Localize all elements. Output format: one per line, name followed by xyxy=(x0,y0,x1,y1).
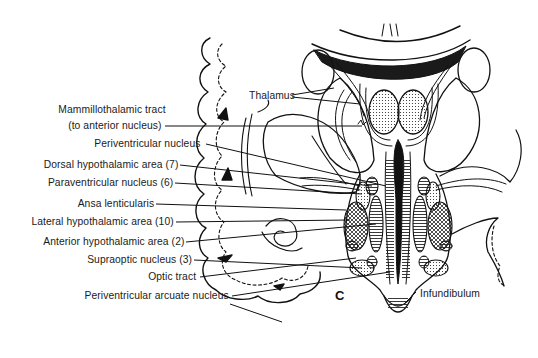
label-periventricular-arcuate-nucleus: Periventricular arcuate nucleus xyxy=(85,289,229,302)
label-thalamus: Thalamus xyxy=(249,89,295,102)
label-dorsal-hypothalamic-area: Dorsal hypothalamic area (7) xyxy=(43,158,178,171)
label-paraventricular-nucleus: Paraventricular nucleus (6) xyxy=(48,176,173,189)
panel-letter: C xyxy=(335,288,344,303)
corpus-callosum-upper xyxy=(340,26,460,42)
supraoptic-nucleus-right xyxy=(424,260,448,276)
label-lateral-hypothalamic-area: Lateral hypothalamic area (10) xyxy=(32,215,174,228)
label-mammillothalamic-tract-note: (to anterior nucleus) xyxy=(69,119,162,132)
label-infundibulum: Infundibulum xyxy=(420,287,480,300)
label-ansa-lenticularis: Ansa lenticularis xyxy=(77,197,154,210)
label-optic-tract: Optic tract xyxy=(148,270,196,283)
label-supraoptic-nucleus: Supraoptic nucleus (3) xyxy=(87,253,192,266)
hypothalamus-coronal-section-diagram: Thalamus Mammillothalamic tract (to ante… xyxy=(0,0,538,358)
anterior-nucleus-right xyxy=(398,90,428,134)
anterior-nucleus-left xyxy=(369,90,399,134)
label-anterior-hypothalamic-area: Anterior hypothalamic area (2) xyxy=(43,235,184,248)
label-mammillothalamic-tract: Mammillothalamic tract xyxy=(59,103,166,116)
label-periventricular-nucleus: Periventricular nucleus xyxy=(94,137,200,150)
